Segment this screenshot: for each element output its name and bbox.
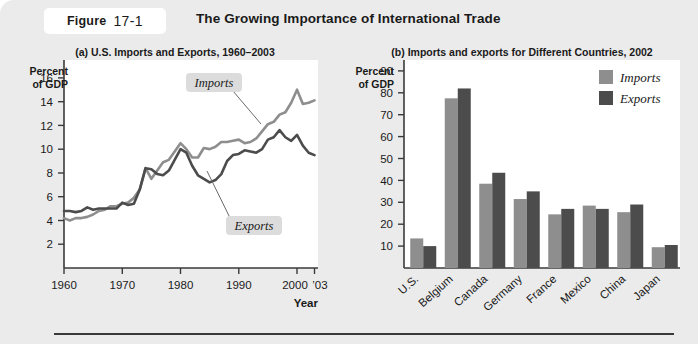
category-label-mexico: Mexico — [558, 273, 593, 306]
panel-b-y-tick-40: 40 — [380, 175, 393, 187]
panel-b-plot: 10 20 30 40 50 60 70 80 90 U.S.BelgiumCa… — [346, 46, 698, 316]
legend-imports-label: Imports — [619, 70, 660, 85]
panel-a-x-tick-1970: 1970 — [110, 279, 136, 291]
panel-a-y-tick-12: 12 — [40, 120, 53, 132]
panel-b-category-labels: U.S.BelgiumCanadaGermanyFranceMexicoChin… — [396, 272, 662, 313]
panel-b-y-tick-20: 20 — [380, 218, 393, 230]
panel-b-bar-chart: (b) Imports and exports for Different Co… — [346, 46, 698, 316]
figure-label: Figure — [67, 14, 106, 28]
bar-china-exports — [630, 205, 643, 268]
bar-canada-imports — [479, 184, 492, 268]
panel-a-y-tick-14: 14 — [40, 96, 53, 108]
figure-header: Figure 17-1 The Growing Importance of In… — [0, 8, 698, 36]
bar-us-imports — [410, 238, 423, 268]
bar-mexico-imports — [583, 206, 596, 268]
bar-germany-exports — [527, 191, 540, 268]
bar-france-exports — [561, 209, 574, 268]
category-label-belgium: Belgium — [416, 273, 455, 310]
panel-b-title: (b) Imports and exports for Different Co… — [346, 46, 698, 58]
bar-china-imports — [617, 212, 630, 268]
panel-a-y-caption-line1: Percent — [29, 65, 68, 77]
bar-us-exports — [423, 246, 436, 268]
exports-callout: Exports — [226, 216, 282, 235]
panel-a-y-tick-4: 4 — [47, 215, 54, 227]
panel-a-y-caption-line2: of GDP — [32, 78, 68, 90]
bar-belgium-exports — [458, 88, 471, 268]
category-label-japan: Japan — [631, 273, 662, 303]
panel-a-y-tick-labels: 2 4 6 8 10 12 14 16 — [40, 72, 53, 250]
bar-france-imports — [548, 214, 561, 268]
legend-exports-swatch — [599, 91, 613, 105]
panel-a-y-tick-6: 6 — [47, 191, 53, 203]
panel-b-y-tick-10: 10 — [380, 240, 393, 252]
bar-germany-imports — [514, 199, 527, 268]
panel-b-y-tick-50: 50 — [380, 153, 393, 165]
figure-container: Figure 17-1 The Growing Importance of In… — [0, 0, 698, 344]
exports-callout-label: Exports — [234, 219, 274, 233]
imports-callout-label: Imports — [194, 76, 234, 90]
panel-a-x-tick-labels: 1960 1970 1980 1990 2000 ’03 — [51, 279, 327, 291]
panel-a-x-ticks — [64, 268, 315, 274]
panel-b-y-caption-line1: Percent — [355, 65, 394, 77]
panel-a-x-tick-1990: 1990 — [226, 279, 252, 291]
panel-a-y-axis-caption: Percent of GDP — [8, 65, 68, 90]
panel-a-x-tick-1980: 1980 — [168, 279, 194, 291]
panel-a-title: (a) U.S. Imports and Exports, 1960–2003 — [2, 46, 348, 58]
bar-mexico-exports — [596, 209, 609, 268]
panel-a-y-tick-10: 10 — [40, 143, 53, 155]
panel-a-y-ticks — [58, 78, 64, 244]
category-label-france: France — [524, 273, 559, 306]
figure-title: The Growing Importance of International … — [196, 11, 501, 26]
panel-a-x-tick-1960: 1960 — [51, 279, 77, 291]
panel-a-line-chart: (a) U.S. Imports and Exports, 1960–2003 … — [0, 46, 346, 316]
category-label-germany: Germany — [481, 272, 524, 313]
panel-b-y-ticks — [398, 71, 404, 246]
bottom-rule — [54, 333, 674, 335]
panel-a-x-tick-2000: 2000 — [282, 279, 308, 291]
bar-belgium-imports — [445, 98, 458, 268]
bar-japan-exports — [665, 245, 678, 268]
panel-b-y-axis-caption: Percent of GDP — [344, 65, 394, 90]
panel-a-x-tick-2003: ’03 — [312, 279, 327, 291]
panel-b-y-tick-labels: 10 20 30 40 50 60 70 80 90 — [380, 65, 393, 252]
panel-b-y-tick-60: 60 — [380, 131, 393, 143]
category-label-us: U.S. — [396, 273, 421, 297]
figure-number: 17-1 — [113, 13, 143, 29]
panel-a-y-tick-2: 2 — [47, 238, 53, 250]
legend-imports-swatch — [599, 70, 613, 84]
panel-b-y-tick-30: 30 — [380, 196, 393, 208]
imports-callout: Imports — [186, 73, 242, 92]
panel-b-y-tick-70: 70 — [380, 109, 393, 121]
bar-japan-imports — [652, 247, 665, 268]
category-label-china: China — [597, 272, 628, 301]
legend-exports-label: Exports — [619, 91, 660, 106]
panel-a-x-axis-caption: Year — [294, 297, 319, 309]
panel-b-y-caption-line2: of GDP — [358, 78, 394, 90]
panel-a-y-tick-8: 8 — [47, 167, 53, 179]
bar-canada-exports — [492, 173, 505, 268]
figure-number-badge: Figure 17-1 — [44, 8, 166, 34]
